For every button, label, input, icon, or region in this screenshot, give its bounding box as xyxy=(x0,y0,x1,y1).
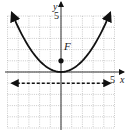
y-tick-label: 5 xyxy=(54,10,59,21)
x-tick-label: 5 xyxy=(110,74,115,85)
parabola-graph: F y 5 5 x xyxy=(0,0,126,132)
x-axis-label: x xyxy=(119,74,125,85)
focus-label: F xyxy=(63,40,71,52)
focus-point xyxy=(58,58,63,63)
